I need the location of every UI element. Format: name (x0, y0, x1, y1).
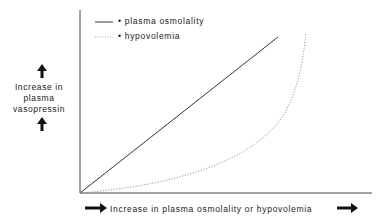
up-arrow-icon (37, 117, 47, 131)
legend-item-plasma-osmolality: • plasma osmolality (118, 16, 204, 26)
y-label-line: vasopressin (0, 104, 78, 115)
y-axis-label: Increase in plasma vasopressin (0, 82, 78, 115)
series-plasma-osmolality (80, 37, 278, 193)
y-label-line: Increase in (0, 82, 78, 93)
legend-item-hypovolemia: • hypovolemia (118, 31, 180, 41)
series-hypovolemia (80, 33, 306, 193)
right-arrow-icon (85, 203, 107, 213)
x-axis-label: Increase in plasma osmolality or hypovol… (110, 204, 312, 214)
right-arrow-icon (337, 203, 358, 213)
up-arrow-icon (37, 64, 47, 78)
y-label-line: plasma (0, 93, 78, 104)
